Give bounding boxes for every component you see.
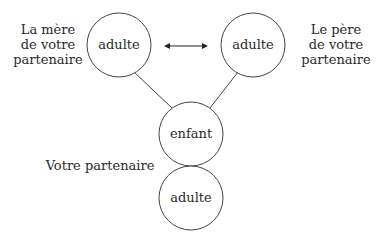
label-line: de votre [296, 37, 376, 52]
double-arrow-icon [164, 43, 208, 49]
edge-father-child [210, 72, 238, 108]
label-line: partenaire [8, 52, 88, 67]
svg-text:enfant: enfant [170, 126, 213, 141]
node-father: adulte [221, 13, 285, 77]
label-father: Le père de votre partenaire [296, 22, 376, 67]
svg-text:adulte: adulte [170, 190, 212, 205]
edge-mother-child [134, 72, 172, 108]
label-line: Le père [296, 22, 376, 37]
label-line: La mère [8, 22, 88, 37]
label-line: de votre [8, 37, 88, 52]
svg-text:adulte: adulte [232, 37, 274, 52]
label-mother: La mère de votre partenaire [8, 22, 88, 67]
label-line: partenaire [296, 52, 376, 67]
svg-text:adulte: adulte [98, 37, 140, 52]
node-partner: adulte [159, 166, 223, 230]
node-child: enfant [159, 102, 223, 166]
node-mother: adulte [87, 13, 151, 77]
label-partner: Votre partenaire [40, 158, 160, 173]
